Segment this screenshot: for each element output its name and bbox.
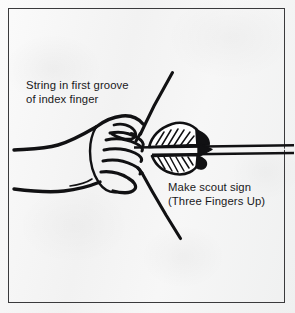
caption-scout-line-2: (Three Fingers Up) [168,194,265,208]
caption-scout-sign: Make scout sign (Three Fingers Up) [168,180,265,208]
caption-string-line-1: String in first groove [26,78,129,92]
illustration-page: String in first groove of index finger M… [0,0,295,313]
caption-string-line-2: of index finger [26,92,129,106]
archery-hand-drawing [0,0,295,313]
hand-fist-icon [14,116,143,193]
caption-string-groove: String in first groove of index finger [26,78,129,106]
caption-scout-line-1: Make scout sign [168,180,265,194]
arrow-fletching-icon [149,123,212,175]
